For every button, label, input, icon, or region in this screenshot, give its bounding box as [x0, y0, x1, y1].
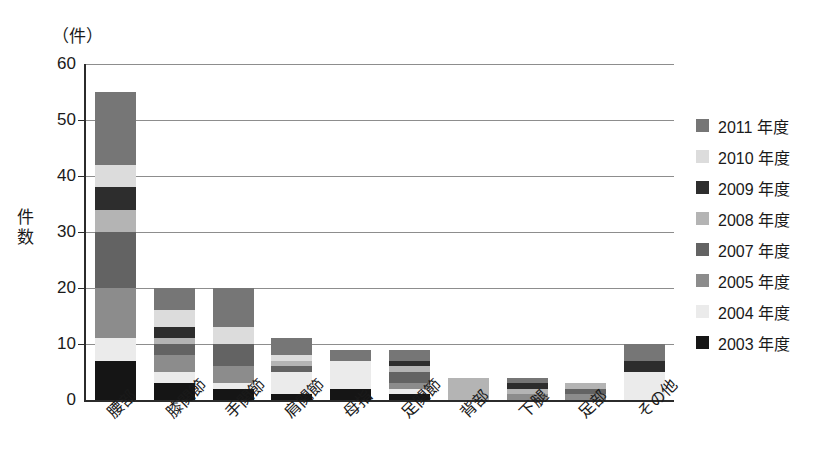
bars-container	[86, 64, 674, 400]
legend-label: 2010 年度	[718, 145, 790, 169]
legend-item-2009年度[interactable]: 2009 年度	[696, 172, 816, 203]
legend-label: 2003 年度	[718, 331, 790, 355]
legend-label: 2011 年度	[718, 114, 789, 138]
y-axis-title-char-2: 数	[14, 228, 36, 248]
bar-segment-腰部-2007年度	[95, 232, 136, 288]
legend-label: 2005 年度	[718, 269, 790, 293]
y-tick-label-50: 50	[36, 110, 76, 130]
bar-segment-腰部-2008年度	[95, 210, 136, 232]
legend-item-2011年度[interactable]: 2011 年度	[696, 110, 816, 141]
y-tick-mark-20	[78, 288, 84, 289]
bar-segment-膝関節-2007年度	[154, 344, 195, 355]
y-tick-label-40: 40	[36, 166, 76, 186]
bar-segment-膝関節-2005年度	[154, 355, 195, 372]
bar-segment-膝関節-2010年度	[154, 310, 195, 327]
legend-swatch-icon	[696, 212, 709, 225]
legend-item-2003年度[interactable]: 2003 年度	[696, 327, 816, 358]
bar-segment-足関節-2011年度	[389, 350, 430, 361]
stacked-bar-chart: （件） 件 数 0102030405060 腰部膝関節手関節肩関節母指足関節背部…	[0, 0, 822, 467]
legend-label: 2008 年度	[718, 207, 790, 231]
bar-segment-手関節-2011年度	[213, 288, 254, 327]
bar-segment-膝関節-2011年度	[154, 288, 195, 310]
y-axis-title-char-1: 件	[14, 208, 36, 228]
bar-segment-腰部-2010年度	[95, 165, 136, 187]
y-tick-label-60: 60	[36, 54, 76, 74]
y-tick-label-10: 10	[36, 334, 76, 354]
y-tick-mark-10	[78, 344, 84, 345]
legend-swatch-icon	[696, 150, 709, 163]
legend-label: 2007 年度	[718, 238, 790, 262]
bar-segment-母指-2011年度	[330, 350, 371, 361]
bar-腰部[interactable]	[95, 92, 136, 400]
y-tick-label-30: 30	[36, 222, 76, 242]
legend-item-2010年度[interactable]: 2010 年度	[696, 141, 816, 172]
y-tick-label-0: 0	[36, 390, 76, 410]
legend-swatch-icon	[696, 119, 709, 132]
legend-item-2008年度[interactable]: 2008 年度	[696, 203, 816, 234]
bar-segment-その他-2011年度	[624, 344, 665, 361]
bar-segment-手関節-2010年度	[213, 327, 254, 344]
bar-segment-肩関節-2011年度	[271, 338, 312, 355]
bar-segment-その他-2009年度	[624, 361, 665, 372]
y-tick-mark-30	[78, 232, 84, 233]
legend-swatch-icon	[696, 274, 709, 287]
bar-segment-膝関節-2009年度	[154, 327, 195, 338]
y-tick-mark-50	[78, 120, 84, 121]
legend-item-2004年度[interactable]: 2004 年度	[696, 296, 816, 327]
y-tick-mark-40	[78, 176, 84, 177]
bar-segment-腰部-2009年度	[95, 187, 136, 209]
legend-label: 2004 年度	[718, 300, 790, 324]
legend-label: 2009 年度	[718, 176, 790, 200]
legend-swatch-icon	[696, 243, 709, 256]
legend-swatch-icon	[696, 336, 709, 349]
legend-item-2005年度[interactable]: 2005 年度	[696, 265, 816, 296]
legend-swatch-icon	[696, 181, 709, 194]
bar-segment-腰部-2011年度	[95, 92, 136, 165]
bar-segment-腰部-2005年度	[95, 288, 136, 338]
legend: 2011 年度2010 年度2009 年度2008 年度2007 年度2005 …	[696, 110, 816, 358]
bar-segment-腰部-2004年度	[95, 338, 136, 360]
bar-segment-手関節-2007年度	[213, 344, 254, 366]
x-axis-labels: 腰部膝関節手関節肩関節母指足関節背部下腿足部その他	[84, 402, 672, 467]
y-axis-unit-label: （件）	[52, 22, 103, 47]
bar-segment-母指-2004年度	[330, 361, 371, 389]
plot-area	[84, 64, 674, 402]
legend-item-2007年度[interactable]: 2007 年度	[696, 234, 816, 265]
legend-swatch-icon	[696, 305, 709, 318]
y-axis-title: 件 数	[14, 208, 36, 248]
y-tick-label-20: 20	[36, 278, 76, 298]
